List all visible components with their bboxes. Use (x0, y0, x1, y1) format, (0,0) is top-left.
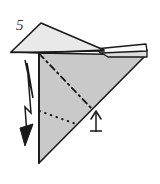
upper-left-flap (11, 23, 104, 53)
origami-illustration: 5 (0, 0, 160, 184)
origami-diagram: 5 (0, 0, 160, 184)
push-up-arrow (90, 111, 102, 132)
step-number-label: 5 (16, 17, 24, 33)
fold-down-zigzag-arrow (20, 60, 33, 146)
